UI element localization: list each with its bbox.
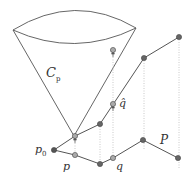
point-upper-1 [97, 121, 102, 126]
label-q-hat: q̂ [119, 98, 126, 109]
label-cone-text: C [46, 65, 56, 80]
label-P: P [160, 134, 168, 146]
point-upper-end [176, 34, 181, 39]
label-q: q [116, 161, 123, 172]
diagram-svg [0, 0, 193, 180]
point-p [72, 152, 77, 157]
point-lower-1 [97, 161, 102, 166]
label-p0-sub: 0 [42, 150, 46, 158]
point-q [110, 155, 115, 160]
point-upper-2 [141, 55, 146, 60]
label-cone-sub: p [56, 75, 60, 83]
diagram-canvas: Cp p0 p q q̂ P [0, 0, 193, 180]
cone-rim-top [13, 10, 136, 30]
cone [13, 10, 136, 136]
label-p: p [63, 161, 70, 172]
cone-rim-bottom [13, 28, 136, 44]
point-P-vertex [140, 137, 145, 142]
point-q-hat [110, 101, 115, 106]
projection-lines [75, 37, 179, 168]
label-p0-text: p [35, 143, 42, 156]
point-gray-top [110, 47, 115, 52]
label-cone: Cp [46, 66, 60, 83]
label-p0: p0 [35, 144, 47, 158]
point-p0 [51, 147, 56, 152]
cone-right-edge [74, 28, 136, 136]
point-lower-end [175, 155, 180, 160]
cone-left-edge [13, 30, 74, 136]
arrow-icons [74, 52, 115, 143]
point-apex [72, 133, 77, 138]
